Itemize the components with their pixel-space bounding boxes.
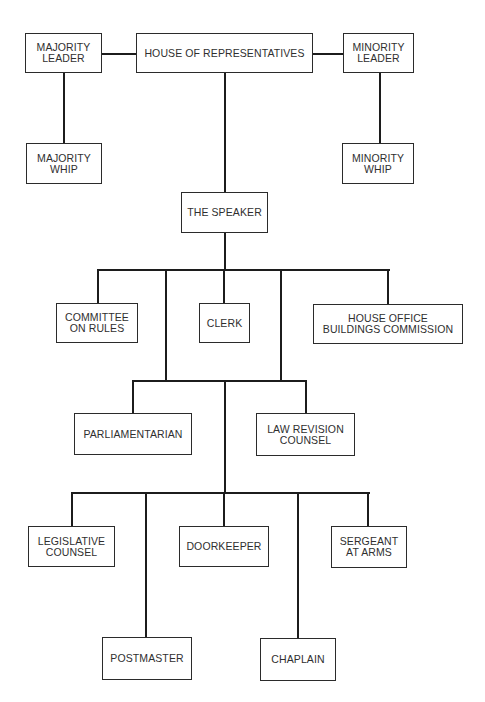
connector-bar2-to-bar3 — [224, 380, 226, 494]
node-postmaster: POSTMASTER — [102, 637, 192, 680]
node-minority-whip: MINORITY WHIP — [342, 143, 414, 184]
connector-majority-leader-house — [102, 53, 136, 55]
connector-bar1-to-bar2-right — [280, 269, 282, 382]
node-house-office-buildings-commission: HOUSE OFFICE BUILDINGS COMMISSION — [313, 304, 463, 344]
connector-house-speaker — [224, 73, 226, 192]
node-house-of-representatives: HOUSE OF REPRESENTATIVES — [136, 33, 313, 73]
node-legislative-counsel: LEGISLATIVE COUNSEL — [28, 526, 115, 567]
branch-bar-1 — [97, 269, 390, 271]
connector-majority-leader-whip — [63, 73, 65, 143]
connector-speaker-down — [224, 233, 226, 271]
node-majority-whip: MAJORITY WHIP — [26, 143, 102, 184]
node-doorkeeper: DOORKEEPER — [179, 526, 269, 567]
connector-committee-on-rules — [97, 269, 99, 303]
node-parliamentarian: PARLIAMENTARIAN — [74, 413, 192, 455]
connector-house-minority-leader — [313, 53, 343, 55]
node-law-revision-counsel: LAW REVISION COUNSEL — [256, 413, 355, 456]
connector-chaplain — [297, 492, 299, 638]
connector-legislative-counsel — [71, 492, 73, 526]
connector-clerk — [223, 269, 225, 303]
branch-bar-2 — [132, 380, 307, 382]
connector-bar1-to-bar2-left — [165, 269, 167, 382]
node-committee-on-rules: COMMITTEE ON RULES — [56, 303, 138, 343]
connector-law-revision-counsel — [305, 380, 307, 413]
house-organization-chart: MAJORITY LEADER HOUSE OF REPRESENTATIVES… — [0, 0, 485, 702]
connector-postmaster — [145, 492, 147, 637]
connector-doorkeeper — [223, 492, 225, 526]
connector-parliamentarian — [132, 380, 134, 413]
node-minority-leader: MINORITY LEADER — [343, 33, 414, 73]
node-the-speaker: THE SPEAKER — [181, 192, 268, 233]
connector-house-office-buildings — [387, 269, 389, 304]
node-chaplain: CHAPLAIN — [260, 638, 336, 681]
branch-bar-3 — [71, 492, 370, 494]
connector-sergeant-at-arms — [367, 492, 369, 526]
node-majority-leader: MAJORITY LEADER — [25, 33, 102, 73]
node-sergeant-at-arms: SERGEANT AT ARMS — [331, 526, 407, 568]
connector-minority-leader-whip — [379, 73, 381, 143]
node-clerk: CLERK — [199, 303, 250, 343]
